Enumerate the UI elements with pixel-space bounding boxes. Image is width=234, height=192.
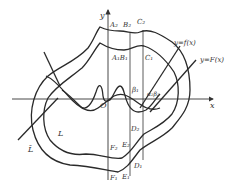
label-L-inner: L xyxy=(57,129,63,138)
label-C1: C₁ xyxy=(145,54,153,62)
origin-label: O xyxy=(100,101,107,110)
line-L-tangent xyxy=(18,98,58,140)
y-axis-label: y xyxy=(99,11,105,20)
label-beta1: β₁ xyxy=(131,86,139,94)
label-B2: B₂ xyxy=(122,21,131,29)
label-A1B1: A₁B₁ xyxy=(111,54,128,62)
inner-region-curve xyxy=(44,43,179,158)
label-A2: A₂ xyxy=(109,21,118,29)
diagram-figure: y x O A₂ B₂ C₂ A₁B₁ C₁ y=f(x) y=F(x) β₁ … xyxy=(0,0,234,192)
line-F xyxy=(150,60,196,112)
label-F1: F₁ xyxy=(109,174,118,182)
label-D2: D₂ xyxy=(130,125,140,133)
label-E2: E₂ xyxy=(121,141,130,149)
label-D1: D₁ xyxy=(133,162,143,170)
x-axis-label: x xyxy=(210,101,215,110)
label-alpha2beta2: α₂β₂ xyxy=(147,90,160,98)
label-C2: C₂ xyxy=(137,18,145,26)
label-L-outer: L̄ xyxy=(27,145,33,154)
label-F: y=F(x) xyxy=(199,56,224,64)
label-F2: F₂ xyxy=(109,144,118,152)
label-E1: E₁ xyxy=(121,173,130,181)
label-f: y=f(x) xyxy=(173,39,196,47)
